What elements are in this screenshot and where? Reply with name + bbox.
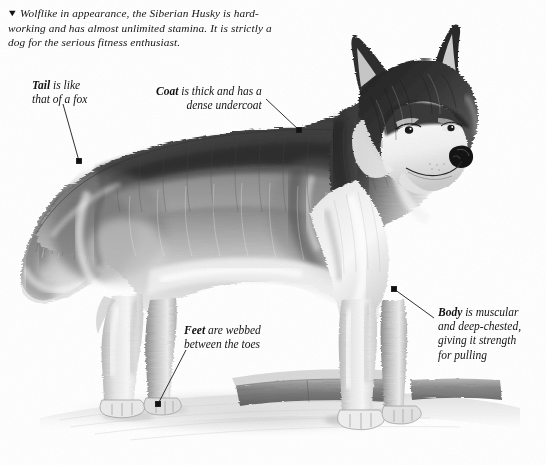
callout-label-body: Body is muscular and deep-chested, givin… — [438, 305, 521, 362]
husky-illustration — [0, 0, 546, 465]
callout-body-line-3: giving it strength — [438, 333, 521, 347]
callout-tail-keyword: Tail — [32, 79, 50, 91]
callout-body-rest: is muscular — [462, 306, 518, 318]
caption-triangle-marker: ▼ — [7, 9, 18, 18]
callout-body-line-4: for pulling — [438, 348, 521, 362]
callout-coat-line-2: dense undercoat — [156, 98, 262, 112]
caption-line-1: Wolflike in appearance, the Siberian Hus… — [20, 7, 259, 19]
callout-label-tail: Tail is like that of a fox — [32, 78, 87, 106]
callout-coat-line-1: Coat is thick and has a — [156, 84, 262, 98]
callout-tail-line-1: Tail is like — [32, 78, 87, 92]
callout-body-keyword: Body — [438, 306, 462, 318]
callout-feet-rest: are webbed — [205, 324, 261, 336]
callout-label-coat: Coat is thick and has a dense undercoat — [156, 84, 262, 112]
callout-tail-rest: is like — [50, 79, 80, 91]
callout-label-feet: Feet are webbed between the toes — [184, 323, 261, 351]
callout-body-line-2: and deep-chested, — [438, 319, 521, 333]
callout-feet-line-2: between the toes — [184, 337, 261, 351]
callout-feet-line-1: Feet are webbed — [184, 323, 261, 337]
figure-caption: ▼Wolflike in appearance, the Siberian Hu… — [8, 6, 276, 50]
callout-feet-keyword: Feet — [184, 324, 205, 336]
callout-body-line-1: Body is muscular — [438, 305, 521, 319]
callout-tail-line-2: that of a fox — [32, 92, 87, 106]
callout-coat-keyword: Coat — [156, 85, 178, 97]
illustration-plate: ▼Wolflike in appearance, the Siberian Hu… — [0, 0, 546, 465]
caption-line-2: working and has almost unlimited stamina… — [8, 22, 263, 34]
callout-coat-rest: is thick and has a — [178, 85, 261, 97]
